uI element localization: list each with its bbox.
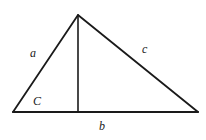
label-side-b: b [99, 120, 105, 132]
label-side-c: c [142, 43, 147, 55]
side-c-line [78, 15, 198, 112]
side-a-line [13, 15, 78, 112]
label-side-a: a [30, 47, 36, 59]
triangle-diagram: a c C b [0, 0, 206, 140]
label-angle-C: C [33, 95, 41, 107]
